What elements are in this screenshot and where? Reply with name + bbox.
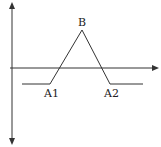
arrow-right-icon <box>152 65 159 71</box>
vertical-axis <box>9 2 15 145</box>
label-a2: A2 <box>103 87 119 100</box>
label-b: B <box>78 16 86 29</box>
horizontal-axis <box>10 65 159 71</box>
arrow-down-icon <box>9 138 15 145</box>
label-a1: A1 <box>43 87 59 100</box>
diagram-canvas: B A1 A2 <box>0 0 161 147</box>
triangle-curve <box>22 30 143 84</box>
arrow-up-icon <box>9 2 15 9</box>
